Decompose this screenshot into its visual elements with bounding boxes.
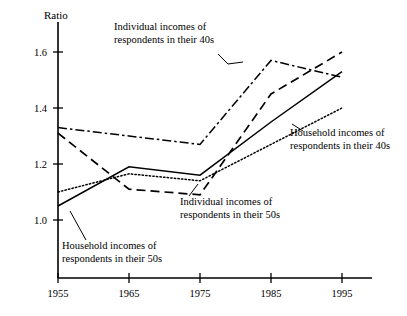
series-line-individual-50s bbox=[58, 52, 342, 195]
annotation-individual-40s-line2: respondents in their 40s bbox=[114, 34, 214, 45]
y-tick-label-1.6: 1.6 bbox=[34, 47, 47, 58]
annotation-individual-40s-line1: Individual incomes of bbox=[114, 21, 207, 32]
x-tick-label-1985: 1985 bbox=[261, 288, 282, 299]
series-line-household-50s bbox=[58, 72, 342, 206]
leader-line-individual-40s bbox=[218, 54, 243, 64]
chart-svg: 1.6 1.4 1.2 1.0 1955 1965 1975 1985 1995… bbox=[0, 0, 407, 316]
annotation-household-50s-line1: Household incomes of bbox=[62, 240, 157, 251]
annotation-household-40s-line2: respondents in their 40s bbox=[290, 140, 390, 151]
leader-line-household-50s bbox=[70, 211, 86, 240]
annotation-household-50s: Household incomes of respondents in thei… bbox=[62, 240, 162, 264]
y-axis-title: Ratio bbox=[44, 9, 68, 21]
x-tick-label-1975: 1975 bbox=[190, 288, 211, 299]
annotation-individual-40s: Individual incomes of respondents in the… bbox=[114, 21, 214, 45]
y-tick-label-1.4: 1.4 bbox=[34, 103, 48, 114]
y-tick-label-1.0: 1.0 bbox=[34, 215, 47, 226]
x-tick-label-1995: 1995 bbox=[332, 288, 353, 299]
y-tick-label-1.2: 1.2 bbox=[34, 159, 47, 170]
x-tick-label-1965: 1965 bbox=[119, 288, 140, 299]
annotation-household-40s-line1: Household incomes of bbox=[290, 127, 385, 138]
annotation-household-50s-line2: respondents in their 50s bbox=[62, 253, 162, 264]
annotation-individual-50s-line1: Individual incomes of bbox=[180, 196, 273, 207]
annotation-individual-50s: Individual incomes of respondents in the… bbox=[180, 196, 280, 220]
annotation-individual-50s-line2: respondents in their 50s bbox=[180, 209, 280, 220]
x-tick-label-1955: 1955 bbox=[48, 288, 69, 299]
annotation-household-40s: Household incomes of respondents in thei… bbox=[290, 127, 390, 151]
line-chart-figure: 1.6 1.4 1.2 1.0 1955 1965 1975 1985 1995… bbox=[0, 0, 407, 316]
